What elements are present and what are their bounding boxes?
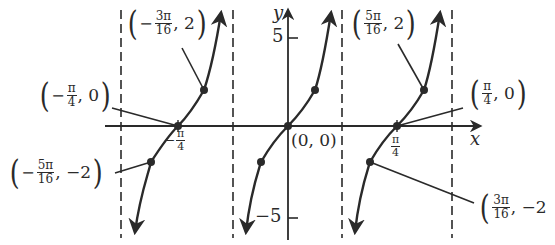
leader-p5 bbox=[397, 108, 463, 126]
x-tick-label-pi-4: π4 bbox=[391, 128, 400, 158]
point-label-neg5pi16-neg2: ( − 5π16 , −2 ) bbox=[8, 155, 104, 189]
y-tick-label-neg5: −5 bbox=[255, 205, 282, 226]
x-tick-label-neg-pi-4: − π4 bbox=[165, 128, 185, 152]
y-tick-label-5: 5 bbox=[272, 25, 283, 46]
point-label-5pi16-2: ( 5π16 , 2 ) bbox=[350, 6, 418, 40]
leader-p1 bbox=[182, 48, 204, 90]
point-origin bbox=[284, 122, 292, 130]
x-axis-label: x bbox=[470, 128, 480, 149]
point-middle-lower bbox=[257, 158, 265, 166]
y-axis-label: y bbox=[273, 2, 283, 23]
point-label-negpi4-0: ( − π4 , 0 ) bbox=[38, 78, 112, 112]
point-label-neg3pi16-2: ( − 3π16 , 2 ) bbox=[126, 6, 208, 40]
point-label-3pi16-neg2: ( 3π16 , −2 bbox=[478, 190, 547, 224]
leader-p4 bbox=[398, 44, 424, 90]
point-middle-upper bbox=[311, 86, 319, 94]
leader-p6 bbox=[370, 162, 474, 203]
leader-lines bbox=[112, 44, 474, 203]
point-label-pi4-0: ( π4 , 0 ) bbox=[468, 76, 528, 110]
origin-label: (0, 0) bbox=[291, 130, 337, 150]
leader-p2 bbox=[112, 108, 178, 126]
